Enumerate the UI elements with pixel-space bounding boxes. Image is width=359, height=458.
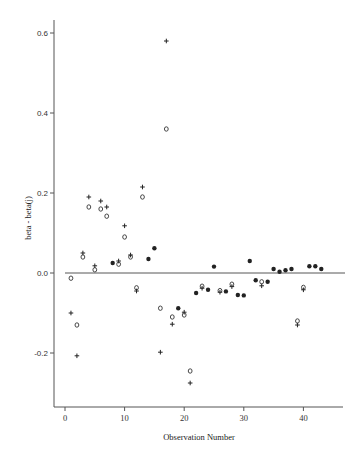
circle-marker (93, 268, 97, 272)
x-tick-label: 0 (63, 413, 67, 423)
overlap-marker (152, 246, 156, 250)
y-tick-label: 0.6 (37, 29, 49, 38)
overlap-marker (283, 268, 287, 272)
y-tick-label: 0.2 (37, 189, 49, 198)
scatter-chart: -0.20.00.20.40.6 010203040 beta - beta(j… (0, 0, 359, 458)
circle-marker (260, 280, 264, 284)
overlap-marker (271, 267, 275, 271)
circle-marker (158, 306, 162, 310)
x-ticks: 010203040 (63, 407, 308, 423)
plus-marker (140, 185, 145, 190)
x-tick-label: 40 (299, 413, 308, 423)
circle-marker (296, 319, 300, 323)
y-tick-label: -0.2 (34, 349, 48, 358)
x-tick-label: 30 (240, 413, 249, 423)
plus-marker (170, 322, 175, 327)
y-axis-title: beta - beta(j) (23, 196, 33, 240)
plus-marker (87, 195, 92, 200)
circle-marker (69, 276, 73, 280)
plus-marker (104, 205, 109, 210)
y-ticks: -0.20.00.20.40.6 (34, 29, 54, 358)
overlap-marker (194, 291, 198, 295)
overlap-marker (236, 293, 240, 297)
plus-marker (158, 350, 163, 355)
circle-marker (75, 323, 79, 327)
x-tick-label: 20 (180, 413, 189, 423)
circle-marker (170, 315, 174, 319)
circle-marker (99, 207, 103, 211)
circle-marker (123, 235, 127, 239)
overlap-marker (319, 267, 323, 271)
data-points (69, 39, 324, 386)
y-tick-label: 0.0 (37, 269, 49, 278)
circle-marker (141, 195, 145, 199)
plus-marker (164, 39, 169, 44)
overlap-marker (265, 280, 269, 284)
overlap-marker (110, 261, 114, 265)
overlap-marker (313, 264, 317, 268)
overlap-marker (146, 257, 150, 261)
axes (54, 20, 345, 407)
circle-marker (87, 205, 91, 209)
overlap-marker (277, 270, 281, 274)
overlap-marker (248, 259, 252, 263)
overlap-marker (206, 288, 210, 292)
overlap-marker (176, 306, 180, 310)
circle-marker (105, 214, 109, 218)
circle-marker (81, 255, 85, 259)
circle-marker (164, 127, 168, 131)
x-tick-label: 10 (120, 413, 129, 423)
overlap-marker (289, 267, 293, 271)
plus-marker (188, 381, 193, 386)
overlap-marker (307, 264, 311, 268)
circle-marker (188, 369, 192, 373)
overlap-marker (254, 278, 258, 282)
plus-marker (98, 199, 103, 204)
x-axis-title: Observation Number (163, 432, 235, 442)
y-tick-label: 0.4 (37, 109, 49, 118)
overlap-marker (242, 293, 246, 297)
overlap-marker (212, 264, 216, 268)
plus-marker (75, 354, 80, 359)
overlap-marker (224, 289, 228, 293)
plus-marker (69, 311, 74, 316)
plus-marker (122, 224, 127, 229)
